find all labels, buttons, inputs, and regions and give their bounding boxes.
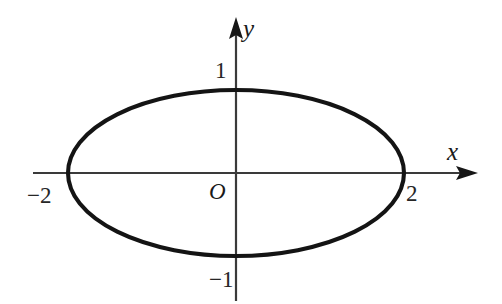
y-negative-intercept-label: −1	[209, 268, 233, 291]
ellipse-figure: y x O 1 −1 −2 2	[0, 0, 502, 304]
y-positive-intercept-label: 1	[215, 59, 227, 82]
x-axis-label: x	[447, 139, 458, 164]
origin-label: O	[209, 180, 226, 203]
x-negative-intercept-label: −2	[27, 184, 51, 207]
y-axis-label: y	[243, 16, 254, 41]
x-positive-intercept-label: 2	[406, 182, 418, 205]
coordinate-plane-svg	[0, 0, 502, 304]
